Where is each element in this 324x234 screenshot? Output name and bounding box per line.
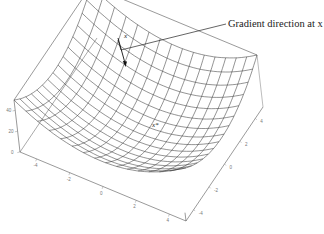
point-x-label: x — [123, 32, 128, 40]
z-axis-tick: 0 — [11, 150, 14, 155]
tick-mark — [169, 214, 170, 216]
z-axis-tick: 40 — [6, 108, 12, 113]
front-axis-tick: 4 — [166, 218, 169, 223]
gradient-bowl-figure: -4-2024-4-202402040 Gradient direction a… — [0, 0, 324, 234]
tick-mark — [102, 187, 103, 189]
tick-mark — [13, 110, 16, 111]
mesh-line — [48, 79, 214, 151]
box-edge — [185, 213, 186, 221]
mesh-line — [53, 73, 219, 145]
surface-mesh — [14, 0, 257, 172]
side-axis-tick: 2 — [245, 142, 248, 147]
mesh-line — [20, 99, 186, 171]
side-axis-tick: 4 — [260, 119, 263, 124]
box-edge — [257, 55, 263, 107]
box-edge — [14, 100, 20, 152]
mesh-line — [180, 55, 257, 169]
gradient-arrow — [118, 38, 125, 63]
axis-ticks: -4-2024-4-202402040 — [6, 108, 263, 223]
mesh-line — [31, 94, 197, 166]
tick-mark — [36, 159, 37, 161]
mesh-line — [138, 57, 215, 171]
tick-mark — [240, 141, 242, 143]
side-axis-tick: -4 — [199, 211, 203, 216]
box-edge — [20, 38, 97, 152]
tick-mark — [17, 152, 20, 153]
mesh-line — [106, 49, 183, 163]
mesh-line — [73, 37, 239, 109]
mesh-line — [38, 7, 115, 121]
tick-mark — [135, 200, 136, 202]
mesh-line — [149, 58, 226, 172]
side-axis-tick: -2 — [214, 188, 218, 193]
gradient-direction-label: Gradient direction at x — [228, 18, 324, 29]
mesh-line — [117, 52, 194, 166]
front-axis-tick: 2 — [133, 204, 136, 209]
mesh-line — [87, 0, 253, 72]
mesh-line — [14, 0, 91, 100]
front-axis-tick: 0 — [100, 191, 103, 196]
tick-mark — [255, 118, 256, 120]
bounding-box-front — [14, 55, 263, 221]
tick-mark — [69, 173, 70, 175]
tick-mark — [15, 131, 18, 132]
mesh-line — [82, 13, 248, 85]
minimum-x-star-label: x* — [151, 121, 159, 129]
mesh-line — [78, 25, 244, 97]
z-axis-tick: 20 — [9, 129, 15, 134]
mesh-line — [83, 39, 160, 153]
box-edge — [14, 0, 91, 100]
tick-mark — [225, 164, 227, 166]
mesh-line — [14, 100, 180, 172]
tick-mark — [209, 187, 211, 189]
front-axis-tick: -2 — [67, 177, 71, 182]
surface-plot: -4-2024-4-202402040 Gradient direction a… — [0, 0, 324, 234]
side-axis-tick: 0 — [230, 165, 233, 170]
mesh-line — [63, 57, 229, 129]
tick-mark — [194, 210, 196, 212]
front-axis-tick: -4 — [34, 163, 38, 168]
mesh-line — [26, 97, 192, 169]
